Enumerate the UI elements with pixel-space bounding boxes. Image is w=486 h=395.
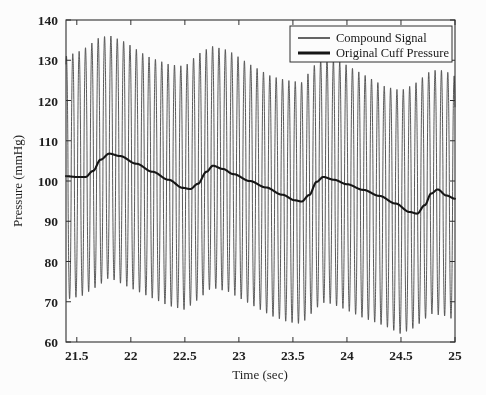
- x-tick-label: 25: [448, 348, 462, 363]
- chart-legend: Compound Signal Original Cuff Pressure: [290, 26, 452, 62]
- y-tick-label: 120: [38, 94, 59, 109]
- y-tick-label: 140: [38, 13, 59, 28]
- y-tick-label: 80: [45, 255, 59, 270]
- x-axis-title: Time (sec): [232, 367, 288, 382]
- pressure-time-chart: 60708090100110120130140 21.52222.52323.5…: [0, 0, 486, 395]
- y-tick-label: 60: [45, 335, 59, 350]
- y-tick-label: 100: [38, 174, 59, 189]
- chart-figure: 60708090100110120130140 21.52222.52323.5…: [0, 0, 486, 395]
- legend-label-compound-signal: Compound Signal: [336, 31, 427, 45]
- x-tick-label: 24: [340, 348, 354, 363]
- x-tick-label: 24.5: [389, 348, 413, 363]
- x-tick-label: 23.5: [281, 348, 305, 363]
- y-tick-label: 110: [38, 134, 58, 149]
- x-tick-label: 22: [124, 348, 138, 363]
- y-axis-title: Pressure (mmHg): [10, 135, 25, 227]
- x-tick-label: 23: [232, 348, 246, 363]
- y-tick-label: 70: [45, 295, 59, 310]
- y-tick-label: 130: [38, 53, 59, 68]
- x-tick-label: 21.5: [65, 348, 89, 363]
- x-tick-label: 22.5: [173, 348, 197, 363]
- y-tick-label: 90: [45, 214, 59, 229]
- legend-label-original-cuff-pressure: Original Cuff Pressure: [336, 46, 449, 60]
